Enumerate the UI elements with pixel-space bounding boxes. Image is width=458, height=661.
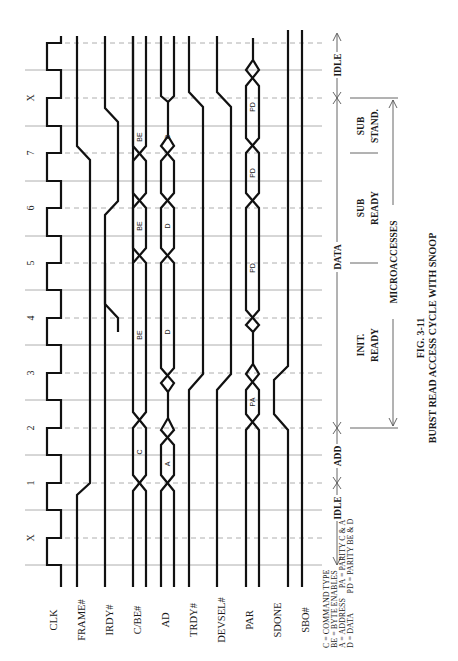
clock-label: 7 xyxy=(25,151,36,156)
phase-label-data: DATA xyxy=(333,244,343,270)
clk-waveform xyxy=(47,36,61,587)
clock-label: 2 xyxy=(25,426,36,431)
signal-label-frame: FRAME# xyxy=(76,599,87,641)
phase-label-idle-start: IDLE xyxy=(333,496,343,519)
clock-label: 3 xyxy=(25,371,36,376)
cbe-bus: C BE BE BE xyxy=(133,36,146,587)
clock-label: 5 xyxy=(25,261,36,266)
signal-label-cbe: C/BE# xyxy=(132,605,143,634)
sdone-waveform xyxy=(274,30,288,587)
cbe-segment-label: BE xyxy=(136,221,143,231)
phase-label-idle-end: IDLE xyxy=(333,53,343,76)
signal-label-ad: AD xyxy=(160,612,171,628)
figure-caption: FIG. 3-11 BURST READ ACCESS CYCLE WITH S… xyxy=(415,233,438,444)
signal-label-clk: CLK xyxy=(48,609,59,630)
par-segment-label: PD xyxy=(249,263,256,273)
par-segment-label: PA xyxy=(249,397,256,406)
cbe-segment-label: BE xyxy=(136,330,143,340)
par-segment-label: PD xyxy=(249,102,256,112)
cbe-segment-label: C xyxy=(136,449,143,454)
clock-label: X xyxy=(25,94,36,102)
ad-segment-label: D xyxy=(164,329,171,334)
clock-label: 6 xyxy=(25,206,36,211)
frame-waveform xyxy=(77,36,90,587)
irdy-waveform-stall xyxy=(105,263,118,332)
bus-phase-annotations: IDLE DATA ADD IDLE xyxy=(331,33,343,565)
micro-sub-ready-1: SUB xyxy=(356,198,366,217)
devsel-waveform xyxy=(217,36,231,587)
micro-sub-ready-2: READY xyxy=(370,191,380,225)
micro-sub-stand-2: STAND. xyxy=(370,109,380,143)
ad-bus: A D D D xyxy=(161,36,174,587)
figure-number: FIG. 3-11 xyxy=(415,318,426,359)
legend-line: D = DATA PD = PARITY BE & D xyxy=(346,518,355,648)
signal-label-trdy: TRDY# xyxy=(188,602,199,637)
figure-title: BURST READ ACCESS CYCLE WITH SNOOP xyxy=(427,233,438,444)
signal-label-sbo: SBO# xyxy=(300,606,311,632)
microaccess-annotations: MICROACCESSES INIT. READY SUB READY SUB … xyxy=(350,98,400,428)
ad-segment-label: A xyxy=(164,461,171,466)
ad-segment-label: D xyxy=(164,223,171,228)
clock-labels: X 1 2 3 4 5 6 7 X xyxy=(25,94,36,542)
ad-segment-label: D xyxy=(164,134,171,139)
micro-init-ready-2: READY xyxy=(370,328,380,362)
microaccesses-label: MICROACCESSES xyxy=(389,221,399,304)
micro-init-ready-1: INIT. xyxy=(356,334,366,356)
signal-label-devsel: DEVSEL# xyxy=(216,597,227,643)
signal-labels: CLK FRAME# IRDY# C/BE# AD TRDY# DEVSEL# … xyxy=(48,597,311,643)
clock-label: X xyxy=(25,534,36,542)
par-bus: PA PD PD PD xyxy=(246,38,259,587)
signal-label-irdy: IRDY# xyxy=(104,604,115,636)
signal-label-par: PAR xyxy=(244,610,255,629)
legend: C = COMMAND TYPE BE = BYTE ENABLES A = A… xyxy=(322,518,355,648)
phase-label-add: ADD xyxy=(333,446,343,467)
par-segment-label: PD xyxy=(249,168,256,178)
clock-label: 1 xyxy=(25,481,36,486)
signal-label-sdone: SDONE xyxy=(272,602,283,637)
trdy-waveform xyxy=(189,36,203,587)
cbe-segment-label: BE xyxy=(136,132,143,142)
timing-diagram: X 1 2 3 4 5 6 7 X C BE BE BE A D D D xyxy=(0,0,458,661)
micro-sub-stand-1: SUB xyxy=(356,116,366,135)
clock-label: 4 xyxy=(25,316,36,321)
